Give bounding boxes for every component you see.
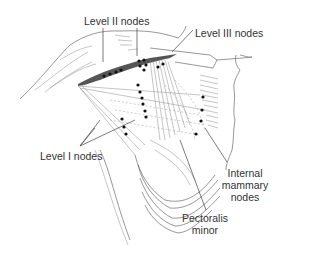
label-pectoralis-line1: Pectoralis: [170, 212, 240, 224]
leader-lines: [80, 28, 227, 210]
label-internal-mammary-line3: nodes: [213, 191, 277, 203]
internal-mammary-node-cluster: [194, 95, 204, 135]
label-internal-mammary-line1: Internal: [213, 167, 277, 179]
sternum-edge: [226, 55, 252, 170]
central-node-chain: [136, 83, 147, 118]
label-level-iii-nodes: Level III nodes: [195, 27, 263, 39]
label-internal-mammary-nodes: Internal mammary nodes: [213, 167, 277, 203]
pectoral-muscle-band: [78, 54, 177, 86]
label-internal-mammary-line2: mammary: [213, 179, 277, 191]
label-level-i-nodes: Level I nodes: [40, 150, 102, 162]
label-pectoralis-minor: Pectoralis minor: [170, 212, 240, 236]
label-level-ii-nodes: Level II nodes: [84, 15, 149, 27]
label-pectoralis-line2: minor: [170, 224, 240, 236]
